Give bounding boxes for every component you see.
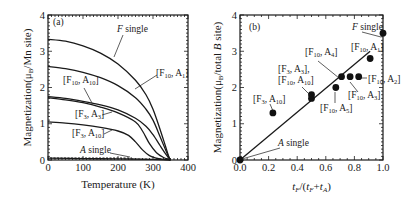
panel-a-xtick-label: 0 bbox=[45, 162, 50, 173]
data-point bbox=[347, 73, 354, 80]
label-f10-a5: [F10​, A5​] bbox=[320, 103, 352, 114]
panel-b-xtick-label: 0.6 bbox=[319, 162, 332, 173]
data-point bbox=[367, 55, 374, 62]
panel-a-ytick-label: 0 bbox=[40, 155, 45, 166]
panel-a-ytick-label: 2 bbox=[40, 82, 45, 93]
panel-b-ytick-label: 0 bbox=[232, 155, 237, 166]
label-f10-a10: [F10​, A10​] bbox=[278, 75, 314, 86]
label-a-single: A single bbox=[79, 145, 111, 155]
label-f3-a10: [F3​, A10​] bbox=[253, 94, 285, 105]
label-f10-a3: [F10​, A3​] bbox=[348, 90, 380, 101]
panel-a-xtick-label: 400 bbox=[180, 162, 196, 173]
panel-a-label: (a) bbox=[53, 17, 64, 28]
panel-a: 010020030040001234(a)F single[F10​, A1​]… bbox=[21, 10, 196, 192]
panel-b-xtick-label: 0.8 bbox=[348, 162, 361, 173]
panel-a-ytick-label: 1 bbox=[40, 118, 45, 129]
panel-a-xtick-label: 100 bbox=[75, 162, 91, 173]
panel-b: 0.00.20.40.60.81.001234(b)F single[F10​,… bbox=[211, 10, 400, 195]
panel-a-ytick-label: 3 bbox=[40, 46, 45, 57]
panel-b-ylabel: Magnetization(μB/total B site) bbox=[211, 21, 225, 153]
label-f10-a4: [F10​, A4​] bbox=[305, 47, 337, 58]
panel-a-xlabel: Temperature (K) bbox=[81, 178, 155, 191]
panel-b-label: (b) bbox=[249, 22, 260, 33]
label-f-single: F single bbox=[351, 22, 383, 32]
panel-b-xtick-label: 1.0 bbox=[376, 162, 389, 173]
panel-a-frame bbox=[48, 15, 188, 160]
label-f3-a3: [F3​, A3​] bbox=[75, 109, 104, 120]
data-point bbox=[308, 95, 315, 102]
label-f3-a10: [F3​, A10​] bbox=[72, 128, 104, 139]
label-f10-a10: [F10​, A10​] bbox=[63, 75, 99, 86]
panel-b-xtick-label: 0.4 bbox=[291, 162, 305, 173]
figure: 010020030040001234(a)F single[F10​, A1​]… bbox=[0, 0, 419, 205]
panel-a-xtick-label: 300 bbox=[145, 162, 161, 173]
label-f-single: F single bbox=[116, 24, 148, 34]
data-point bbox=[338, 73, 345, 80]
panel-b-xlabel: tF/(tF+tA) bbox=[292, 180, 331, 194]
panel-a-ylabel: Magnetization(μB/Mn site) bbox=[21, 28, 35, 146]
panel-b-ytick-label: 4 bbox=[232, 10, 238, 21]
panel-b-xtick-label: 0.2 bbox=[262, 162, 275, 173]
panel-a-ytick-label: 4 bbox=[40, 10, 46, 21]
label-a-single: A single bbox=[277, 138, 309, 148]
panel-b-frame bbox=[240, 15, 383, 160]
label-f10-a2: [F10​, A2​] bbox=[368, 74, 400, 85]
data-point bbox=[332, 84, 339, 91]
label-f10-a1: [F10​, A1​] bbox=[351, 42, 383, 53]
label-f3-a3: [F3​, A3​], bbox=[278, 64, 310, 75]
label-f10-a1: [F10​, A1​] bbox=[156, 68, 188, 79]
data-point bbox=[237, 157, 244, 164]
panel-b-ytick-label: 2 bbox=[232, 82, 237, 93]
panel-b-ytick-label: 1 bbox=[232, 118, 237, 129]
panel-b-ytick-label: 3 bbox=[232, 46, 237, 57]
panel-a-xtick-label: 200 bbox=[110, 162, 126, 173]
data-point bbox=[355, 73, 362, 80]
